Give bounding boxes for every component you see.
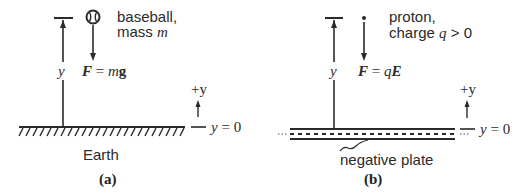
zero-label: y = 0	[209, 119, 241, 135]
arrowhead-down-icon	[90, 53, 96, 61]
panel-caption: (a)	[99, 171, 117, 188]
arrowhead-up-icon	[331, 20, 337, 28]
negative-plate	[278, 129, 470, 139]
axis-arrow	[465, 100, 470, 118]
panel-b: y proton, charge q > 0 F = qE +y y = 0	[278, 8, 510, 188]
force-arrow	[90, 25, 96, 61]
zero-label: y = 0	[478, 121, 510, 137]
plate-leader-line	[340, 140, 368, 151]
height-label: y	[56, 63, 65, 79]
axis-label: +y	[460, 81, 476, 97]
force-arrow	[361, 22, 367, 61]
baseball-icon	[87, 11, 100, 24]
axis-label: +y	[191, 81, 207, 97]
arrowhead-up-icon	[60, 20, 66, 28]
force-equation: F = mg	[81, 63, 127, 79]
panel-caption: (b)	[364, 171, 382, 188]
proton-dot-icon	[362, 16, 366, 20]
panel-a: y baseball, mass m F = mg +y	[19, 8, 241, 188]
arrowhead-up-icon	[465, 100, 470, 107]
object-label-line2: charge q > 0	[389, 24, 472, 41]
height-label: y	[328, 63, 337, 79]
arrowhead-up-icon	[196, 100, 201, 107]
axis-arrow	[196, 100, 201, 117]
object-label-line1: proton,	[389, 8, 436, 25]
diagram-canvas: y baseball, mass m F = mg +y	[0, 0, 528, 193]
arrowhead-down-icon	[361, 53, 367, 61]
surface-label: Earth	[83, 146, 119, 163]
surface-label: negative plate	[340, 151, 433, 168]
object-label-line2: mass m	[117, 23, 168, 40]
ground-hatching	[19, 128, 184, 136]
force-equation: F = qE	[357, 63, 402, 79]
